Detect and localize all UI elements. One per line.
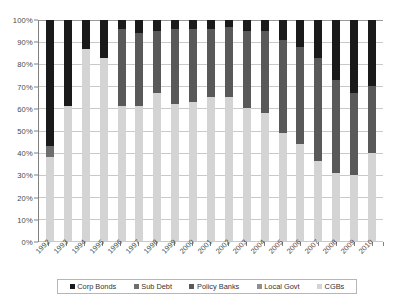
bar-segment [82,49,90,241]
bar-segment [82,20,90,49]
bar-segment [350,93,358,175]
bar-slot [59,20,77,241]
bar-segment [189,102,197,241]
x-axis-tick-label: 1992 [34,237,52,255]
bar-segment [100,20,108,58]
stacked-bar-chart: 0%10%20%30%40%50%60%70%80%90%100% 199219… [0,0,411,300]
legend-item[interactable]: Corp Bonds [70,282,117,291]
legend-item[interactable]: Policy Banks [189,282,239,291]
bar-segment [279,40,287,133]
stacked-bar[interactable] [153,20,161,241]
bar-segment [332,80,340,173]
stacked-bar[interactable] [171,20,179,241]
bar-segment [171,104,179,241]
bar-segment [189,29,197,102]
stacked-bar[interactable] [46,20,54,241]
y-axis-tick-label: 80% [17,60,33,69]
bar-segment [207,97,215,241]
bar-slot [274,20,292,241]
stacked-bar[interactable] [243,20,251,241]
stacked-bar[interactable] [82,20,90,241]
stacked-bar[interactable] [314,20,322,241]
stacked-bar[interactable] [296,20,304,241]
stacked-bar[interactable] [118,20,126,241]
bar-slot [184,20,202,241]
bar-segment [368,153,376,241]
bar-segment [64,106,72,241]
y-axis-tick-label: 90% [17,38,33,47]
bar-segment [64,20,72,106]
bar-segment [261,113,269,241]
bar-segment [135,20,143,33]
stacked-bar[interactable] [350,20,358,241]
chart-legend: Corp BondsSub DebtPolicy BanksLocal Govt… [57,279,357,294]
bar-segment [153,93,161,241]
bar-slot [345,20,363,241]
bar-segment [350,20,358,93]
bar-slot [291,20,309,241]
stacked-bar[interactable] [332,20,340,241]
bar-segment [243,31,251,108]
legend-label: CGBs [325,282,345,291]
y-axis-tick-label: 0% [22,238,33,247]
bar-slot [148,20,166,241]
bar-segment [153,20,161,31]
bar-slot [238,20,256,241]
bar-segment [296,144,304,241]
bar-segment [279,20,287,40]
bar-segment [368,20,376,86]
legend-item[interactable]: Sub Debt [134,282,172,291]
stacked-bar[interactable] [64,20,72,241]
stacked-bar[interactable] [207,20,215,241]
bar-slot [41,20,59,241]
stacked-bar[interactable] [135,20,143,241]
bar-slot [77,20,95,241]
legend-swatch-icon [70,284,75,289]
stacked-bar[interactable] [189,20,197,241]
bar-slot [363,20,381,241]
bar-segment [153,31,161,93]
stacked-bar[interactable] [225,20,233,241]
y-axis-tick-mark [34,153,38,154]
bar-segment [118,20,126,29]
bar-segment [350,175,358,241]
plot-area [38,20,383,242]
y-axis-tick-mark [34,108,38,109]
x-axis-tick-end [383,242,384,246]
bar-segment [368,86,376,152]
y-axis-tick-mark [34,42,38,43]
bar-segment [314,20,322,58]
bar-group [39,20,383,241]
y-axis-tick-label: 100% [13,16,33,25]
stacked-bar[interactable] [368,20,376,241]
x-axis-labels: 1992199319941995199619971998199920002001… [38,247,383,275]
bar-segment [207,20,215,29]
legend-item[interactable]: CGBs [317,282,344,291]
y-axis-tick-mark [34,131,38,132]
legend-swatch-icon [189,284,194,289]
bar-slot [220,20,238,241]
stacked-bar[interactable] [279,20,287,241]
y-axis-tick-mark [34,64,38,65]
bar-slot [113,20,131,241]
bar-segment [118,106,126,241]
y-axis-tick-label: 40% [17,149,33,158]
legend-item[interactable]: Local Govt [257,282,300,291]
bar-slot [309,20,327,241]
stacked-bar[interactable] [261,20,269,241]
bar-segment [135,106,143,241]
bar-segment [46,146,54,157]
legend-swatch-icon [134,284,139,289]
legend-label: Corp Bonds [77,282,116,291]
bar-segment [225,97,233,241]
bar-slot [202,20,220,241]
y-axis-tick-mark [34,175,38,176]
y-axis-tick-label: 60% [17,104,33,113]
bar-segment [332,20,340,80]
bar-segment [279,133,287,241]
bar-segment [261,31,269,113]
bar-segment [332,173,340,242]
stacked-bar[interactable] [100,20,108,241]
y-axis-tick-mark [34,219,38,220]
bar-slot [166,20,184,241]
